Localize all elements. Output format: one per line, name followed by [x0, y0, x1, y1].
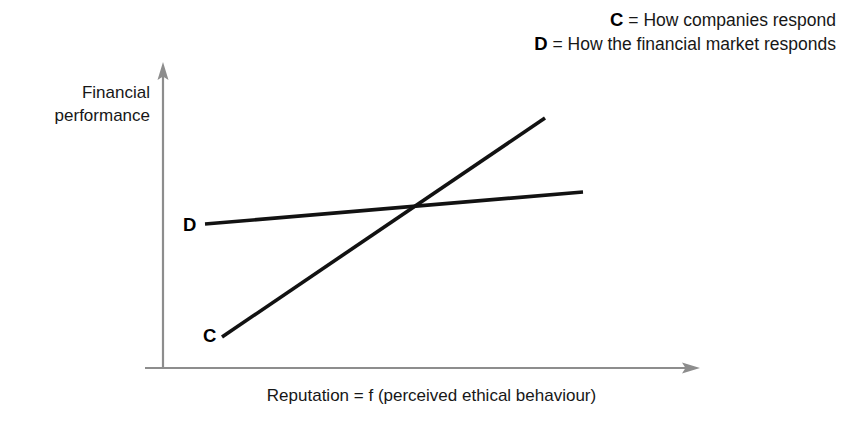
series-line-c: [222, 118, 545, 337]
chart-plot-area: [0, 0, 862, 430]
chart-figure: C = How companies respond D = How the fi…: [0, 0, 862, 430]
